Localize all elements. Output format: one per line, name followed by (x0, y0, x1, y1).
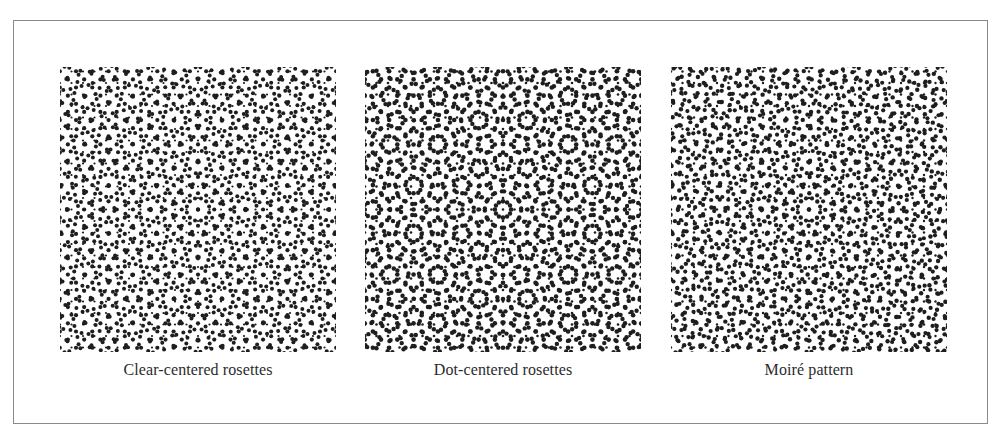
caption-moire-pattern: Moiré pattern (671, 361, 947, 379)
moire-pattern (671, 67, 947, 352)
caption-dot-centered-rosettes: Dot-centered rosettes (365, 361, 641, 379)
caption-clear-centered-rosettes: Clear-centered rosettes (60, 361, 336, 379)
dot-centered-rosettes-pattern (365, 67, 641, 352)
halftone-svg (365, 67, 641, 352)
halftone-svg (60, 67, 336, 352)
figure-frame: Clear-centered rosettes Dot-centered ros… (13, 20, 988, 424)
halftone-svg (671, 67, 947, 352)
clear-centered-rosettes-pattern (60, 67, 336, 352)
